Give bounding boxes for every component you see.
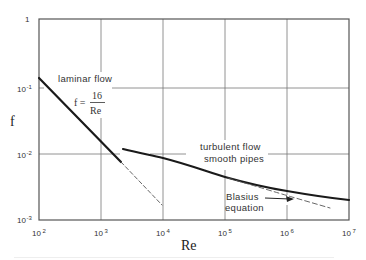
- series: [39, 78, 349, 208]
- smooth-pipes-label: smooth pipes: [204, 153, 264, 164]
- x-axis-label: Re: [181, 238, 197, 253]
- plot-frame: [39, 19, 349, 220]
- laminar-formula-denominator: Re: [90, 105, 102, 116]
- caption-remnant: [14, 257, 334, 258]
- y-axis-label: f: [10, 114, 15, 129]
- y-tick-1e-3: 10-3: [17, 215, 32, 225]
- laminar-flow-label: laminar flow: [58, 73, 112, 84]
- grid: [39, 19, 349, 220]
- y-axis-ticks: 1 10-1 10-2 10-3: [17, 15, 32, 225]
- x-tick-1e3: 103: [94, 228, 108, 238]
- x-tick-1e7: 107: [342, 228, 356, 238]
- x-axis-ticks: 102 103 104 105 106 107: [32, 228, 356, 238]
- laminar-formula-numerator: 16: [92, 90, 102, 101]
- laminar-extrapolation-dashed: [121, 162, 162, 205]
- blasius-label-line1: Blasius: [226, 191, 259, 202]
- x-tick-1e5: 105: [218, 228, 232, 238]
- annotations: laminar flow f = 16 Re turbulent flow sm…: [58, 73, 294, 213]
- blasius-arrow-shaft: [265, 198, 290, 199]
- turbulent-flow-label: turbulent flow: [200, 141, 261, 152]
- x-tick-1e6: 106: [280, 228, 294, 238]
- y-tick-1e-2: 10-2: [17, 150, 32, 160]
- y-tick-1e-1: 10-1: [17, 84, 32, 94]
- laminar-flow-line: [39, 78, 121, 162]
- y-tick-1: 1: [25, 15, 30, 24]
- x-tick-1e4: 104: [156, 228, 170, 238]
- laminar-formula-f: f =: [74, 97, 86, 108]
- blasius-label-line2: equation: [225, 202, 264, 213]
- x-tick-1e2: 102: [32, 228, 46, 238]
- friction-factor-chart: laminar flow f = 16 Re turbulent flow sm…: [0, 0, 366, 260]
